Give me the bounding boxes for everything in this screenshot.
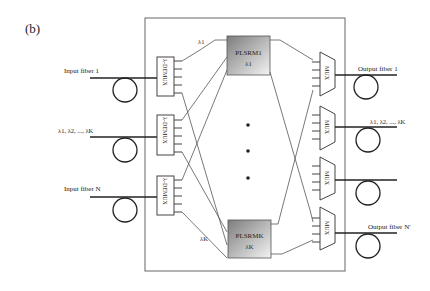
plsrm-k-name: PLSRMK (235, 232, 263, 240)
plsrm-switch-diagram: (b) Input fiber 1 λ1, λ2, ..., λK Input … (0, 0, 430, 291)
plsrm-1-wavelength: λ1 (245, 60, 251, 67)
svg-text:MUX: MUX (324, 66, 330, 81)
input-fiber-n: Input fiber N (64, 185, 157, 222)
mux-1: MUX (312, 52, 335, 96)
input-fiber-2-label: λ1, λ2, ..., λK (58, 127, 94, 134)
output-fiber-1-label: Output fiber 1 (358, 65, 398, 73)
demux-n: λ-DEMUX (157, 176, 182, 215)
plsrm-block-1: PLSRM1 λ1 (227, 36, 270, 75)
fiber-coil-icon (356, 234, 380, 258)
svg-text:λ-DEMUX: λ-DEMUX (162, 59, 168, 87)
output-fiber-1: Output fiber 1 (335, 65, 398, 99)
output-fiber-2-label: λ1, λ2, ..., λK (370, 118, 406, 125)
demux-1: λ-DEMUX (157, 57, 182, 96)
svg-text:MUX: MUX (324, 120, 330, 135)
fiber-coil-icon (113, 78, 137, 102)
output-fiber-n: Output fiber N' (335, 223, 410, 258)
wavelength-tag-bottom: λK (200, 235, 208, 242)
svg-text:λ-DEMUX: λ-DEMUX (162, 117, 168, 145)
input-fiber-2: λ1, λ2, ..., λK (58, 127, 157, 162)
svg-text:MUX: MUX (324, 171, 330, 186)
svg-text:λ-DEMUX: λ-DEMUX (162, 178, 168, 206)
mux-3: MUX (312, 157, 335, 200)
plsrm-block-k: PLSRMK λK (228, 220, 271, 258)
demux-2: λ-DEMUX (157, 115, 182, 155)
wavelength-tag-top: λ1 (198, 38, 204, 45)
svg-text:MUX: MUX (324, 221, 330, 236)
plsrm-1-name: PLSRM1 (235, 49, 262, 57)
input-fiber-n-label: Input fiber N (64, 185, 101, 193)
input-fiber-1: Input fiber 1 (64, 67, 157, 102)
fiber-coil-icon (356, 181, 380, 205)
input-fiber-1-label: Input fiber 1 (64, 67, 99, 75)
fiber-coil-icon (113, 138, 137, 162)
fiber-coil-icon (354, 75, 378, 99)
demux-plsrm-connections (182, 40, 227, 258)
plsrm-mux-connections (270, 40, 313, 254)
mux-2: MUX (312, 106, 335, 150)
fiber-coil-icon (356, 128, 380, 152)
ellipsis-dots (246, 123, 250, 180)
figure-label: (b) (25, 21, 40, 36)
output-fiber-n-label: Output fiber N' (368, 223, 410, 231)
plsrm-k-wavelength: λK (246, 243, 254, 250)
output-fiber-3 (335, 180, 397, 205)
fiber-coil-icon (113, 198, 137, 222)
output-fiber-2: λ1, λ2, ..., λK (335, 118, 406, 152)
mux-4: MUX (312, 207, 335, 250)
